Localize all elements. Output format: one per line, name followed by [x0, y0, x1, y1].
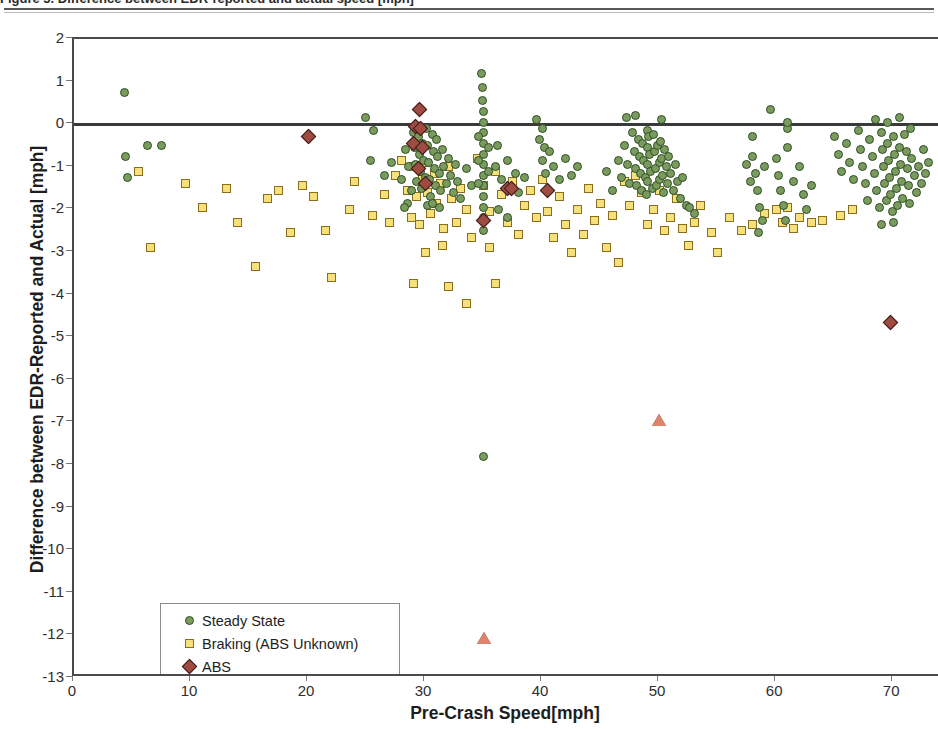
data-point-marker — [222, 184, 231, 193]
data-point-marker — [286, 228, 295, 237]
data-point-marker — [856, 145, 865, 154]
data-point-marker — [387, 158, 396, 167]
data-point-marker — [766, 105, 775, 114]
y-tick-label: -3 — [4, 242, 64, 259]
data-point-marker — [690, 218, 699, 227]
data-point-marker — [666, 213, 675, 222]
data-point-marker — [327, 273, 336, 282]
data-point-marker — [123, 173, 132, 182]
data-point-marker — [917, 179, 926, 188]
data-point-marker — [861, 179, 870, 188]
data-point-marker — [664, 152, 673, 161]
data-point-marker — [895, 113, 904, 122]
data-point-marker — [538, 124, 547, 133]
data-point-marker — [845, 158, 854, 167]
data-point-marker — [690, 209, 699, 218]
data-point-marker — [883, 315, 899, 331]
data-point-marker — [462, 205, 471, 214]
x-tick-label: 70 — [866, 682, 916, 699]
data-point-marker — [725, 213, 734, 222]
data-point-marker — [146, 243, 155, 252]
data-point-marker — [660, 226, 669, 235]
data-point-marker — [385, 218, 394, 227]
data-point-marker — [549, 162, 558, 171]
data-point-marker — [877, 220, 886, 229]
data-point-marker — [907, 154, 916, 163]
data-point-marker — [321, 226, 330, 235]
data-point-marker — [503, 156, 512, 165]
data-point-marker — [865, 135, 874, 144]
y-tick-label: -6 — [4, 369, 64, 386]
data-point-marker — [858, 162, 867, 171]
data-point-marker — [493, 141, 502, 150]
data-point-marker — [543, 207, 552, 216]
data-point-marker — [758, 216, 767, 225]
data-point-marker — [746, 177, 755, 186]
data-point-marker — [889, 132, 898, 141]
data-point-marker — [491, 279, 500, 288]
data-point-marker — [467, 233, 476, 242]
x-tick-mark — [306, 676, 307, 681]
data-point-marker — [541, 169, 550, 178]
data-point-marker — [684, 241, 693, 250]
data-point-marker — [584, 184, 593, 193]
circle-marker-icon — [181, 613, 197, 629]
data-point-marker — [538, 156, 547, 165]
data-point-marker — [380, 190, 389, 199]
y-axis-tick-labels: 210-1-2-3-4-5-6-7-8-9-10-11-12-13 — [0, 37, 64, 676]
x-axis-title: Pre-Crash Speed[mph] — [72, 703, 938, 724]
data-point-marker — [921, 169, 930, 178]
data-point-marker — [479, 203, 488, 212]
data-point-marker — [555, 175, 564, 184]
data-point-marker — [795, 213, 804, 222]
caption-divider-rule-secondary — [4, 12, 934, 13]
data-point-marker — [251, 262, 260, 271]
data-point-marker — [776, 186, 785, 195]
data-point-marker — [834, 150, 843, 159]
data-point-marker — [649, 205, 658, 214]
figure-caption-remnant: Figure 5. Difference between EDR-reporte… — [0, 0, 420, 7]
data-point-marker — [678, 173, 687, 182]
x-tick-mark — [189, 676, 190, 681]
data-point-marker — [479, 192, 488, 201]
data-point-marker — [545, 147, 554, 156]
chart-legend: Steady State Braking (ABS Unknown) ABS N… — [160, 603, 400, 676]
data-point-marker — [400, 203, 409, 212]
data-point-marker — [783, 143, 792, 152]
data-point-marker — [477, 632, 491, 644]
data-point-marker — [795, 162, 804, 171]
y-tick-label: -10 — [4, 540, 64, 557]
x-tick-mark — [657, 676, 658, 681]
data-point-marker — [666, 169, 675, 178]
data-point-marker — [198, 203, 207, 212]
y-tick-label: -1 — [4, 156, 64, 173]
legend-item-abs: ABS — [181, 655, 399, 676]
x-tick-mark — [72, 676, 73, 681]
data-point-marker — [444, 282, 453, 291]
data-point-marker — [526, 186, 535, 195]
y-tick-label: 0 — [4, 114, 64, 131]
data-point-marker — [426, 209, 435, 218]
data-point-marker — [742, 160, 751, 169]
data-point-marker — [707, 228, 716, 237]
data-point-marker — [602, 243, 611, 252]
data-point-marker — [451, 160, 460, 169]
data-point-marker — [779, 201, 788, 210]
y-tick-label: -9 — [4, 497, 64, 514]
data-point-marker — [870, 169, 879, 178]
data-point-marker — [411, 102, 427, 118]
data-point-marker — [456, 194, 465, 203]
data-point-marker — [520, 201, 529, 210]
data-point-marker — [789, 224, 798, 233]
data-point-marker — [802, 205, 811, 214]
data-point-marker — [368, 211, 377, 220]
data-point-marker — [889, 218, 898, 227]
data-point-marker — [830, 132, 839, 141]
data-point-marker — [567, 171, 576, 180]
data-point-marker — [555, 192, 564, 201]
data-point-marker — [415, 220, 424, 229]
scatter-plot-figure: Figure 5. Difference between EDR-reporte… — [0, 0, 938, 729]
x-tick-label: 60 — [749, 682, 799, 699]
data-point-marker — [620, 141, 629, 150]
data-point-marker — [120, 88, 129, 97]
